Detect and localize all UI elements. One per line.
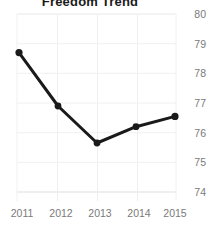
plot-area: [0, 0, 208, 228]
data-point: [55, 103, 62, 110]
x-axis-tick-label: 2014: [127, 207, 150, 219]
y-axis-tick-label: 79: [194, 38, 206, 50]
grid-vertical: [17, 14, 176, 201]
x-axis-tick-label: 2011: [11, 207, 34, 219]
line-chart: Freedom Trend 80 79 78 77 76: [0, 0, 208, 228]
y-axis-tick-label: 77: [194, 97, 206, 109]
data-point: [133, 123, 140, 130]
data-point: [171, 113, 178, 120]
y-axis-tick-label: 75: [194, 156, 206, 168]
x-axis-tick-label: 2013: [88, 207, 111, 219]
y-axis-tick-label: 74: [194, 186, 206, 198]
x-axis-tick-label: 2015: [163, 207, 186, 219]
data-point: [94, 140, 101, 147]
y-axis-tick-label: 78: [194, 67, 206, 79]
y-axis-tick-label: 80: [194, 8, 206, 20]
grid-horizontal: [17, 14, 176, 192]
y-axis-tick-label: 76: [194, 127, 206, 139]
x-axis-tick-label: 2012: [49, 207, 72, 219]
data-point: [15, 49, 22, 56]
